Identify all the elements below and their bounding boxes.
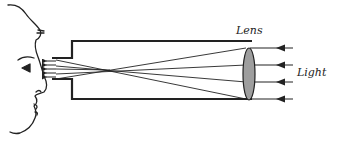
arrow-left-icon [276, 62, 285, 69]
eye-rays [46, 61, 56, 77]
incoming-light-rays [250, 45, 293, 103]
light-label: Light [297, 66, 326, 79]
arrow-left-icon [276, 45, 285, 52]
eyepiece-tube-bottom [52, 79, 252, 99]
arrow-left-icon [276, 96, 285, 103]
telescope-diagram: Lens Light [0, 0, 340, 141]
arrow-left-icon [276, 79, 285, 86]
face-profile-icon [8, 5, 47, 134]
internal-rays [56, 48, 246, 99]
eyepiece-tube [52, 41, 252, 58]
telescope-body [52, 41, 252, 99]
lens-label: Lens [236, 24, 263, 37]
diagram-canvas [0, 0, 340, 141]
objective-lens [243, 48, 255, 100]
